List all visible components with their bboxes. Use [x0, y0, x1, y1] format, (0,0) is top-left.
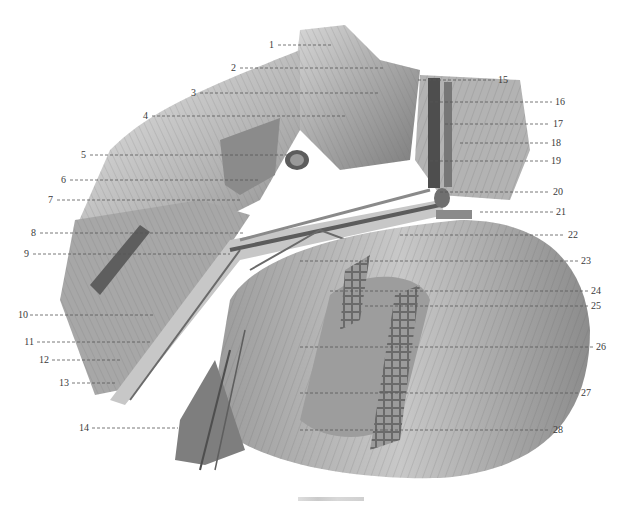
label-5: 5 — [62, 150, 86, 160]
label-14: 14 — [65, 423, 89, 433]
label-13: 13 — [45, 378, 69, 388]
label-9: 9 — [5, 249, 29, 259]
label-21: 21 — [556, 207, 580, 217]
label-3: 3 — [172, 88, 196, 98]
figure-caption — [298, 497, 364, 501]
label-27: 27 — [581, 388, 605, 398]
label-18: 18 — [551, 138, 575, 148]
anatomical-figure: 1 2 3 4 5 6 7 8 9 10 11 12 13 14 15 16 1… — [0, 0, 623, 508]
label-4: 4 — [124, 111, 148, 121]
label-6: 6 — [42, 175, 66, 185]
label-17: 17 — [553, 119, 577, 129]
label-10: 10 — [4, 310, 28, 320]
label-7: 7 — [29, 195, 53, 205]
label-2: 2 — [212, 63, 236, 73]
label-25: 25 — [591, 301, 615, 311]
label-16: 16 — [555, 97, 579, 107]
label-12: 12 — [25, 355, 49, 365]
label-15: 15 — [498, 75, 522, 85]
label-1: 1 — [250, 40, 274, 50]
label-11: 11 — [10, 337, 34, 347]
label-26: 26 — [596, 342, 620, 352]
label-20: 20 — [553, 187, 577, 197]
leader-lines — [0, 0, 623, 508]
label-24: 24 — [591, 286, 615, 296]
label-19: 19 — [551, 156, 575, 166]
label-23: 23 — [581, 256, 605, 266]
label-8: 8 — [12, 228, 36, 238]
label-28: 28 — [553, 425, 577, 435]
label-22: 22 — [568, 230, 592, 240]
